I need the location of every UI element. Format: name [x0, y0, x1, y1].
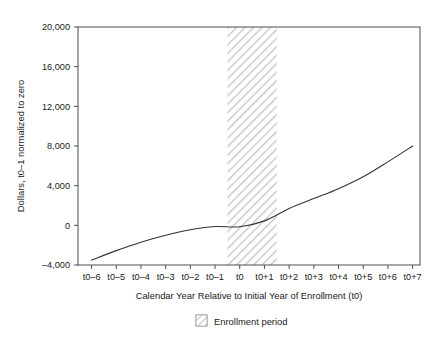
y-tick-label: 4,000 — [47, 181, 70, 191]
y-tick-label: –4,000 — [42, 260, 70, 270]
x-tick-label: t0 — [236, 272, 244, 282]
x-tick-label: t0–6 — [83, 272, 101, 282]
enrollment-period-band — [227, 27, 276, 265]
x-tick-label: t0+7 — [404, 272, 422, 282]
line-chart: –4,00004,0008,00012,00016,00020,000 t0–6… — [0, 0, 446, 341]
x-tick-label: t0+4 — [329, 272, 347, 282]
x-tick-label: t0–2 — [181, 272, 199, 282]
chart-figure: –4,00004,0008,00012,00016,00020,000 t0–6… — [0, 0, 446, 341]
x-tick-label: t0–3 — [157, 272, 175, 282]
legend-swatch-hatch-fill — [197, 316, 207, 326]
y-tick-label: 16,000 — [42, 62, 70, 72]
y-axis-title: Dollars, t0–1 normalized to zero — [15, 80, 26, 212]
x-tick-label: t0+5 — [354, 272, 372, 282]
x-tick-label: t0–4 — [132, 272, 150, 282]
y-tick-label: 20,000 — [42, 22, 70, 32]
y-tick-label: 12,000 — [42, 102, 70, 112]
y-tick-label: 0 — [65, 221, 70, 231]
x-tick-label: t0+1 — [255, 272, 273, 282]
y-tick-label: 8,000 — [47, 141, 70, 151]
x-tick-label: t0+3 — [305, 272, 323, 282]
x-tick-label: t0–1 — [206, 272, 224, 282]
x-tick-label: t0+6 — [379, 272, 397, 282]
x-tick-label: t0+2 — [280, 272, 298, 282]
x-axis-title: Calendar Year Relative to Initial Year o… — [136, 290, 363, 301]
x-tick-label: t0–5 — [107, 272, 125, 282]
legend-label-enrollment-period: Enrollment period — [214, 316, 287, 327]
